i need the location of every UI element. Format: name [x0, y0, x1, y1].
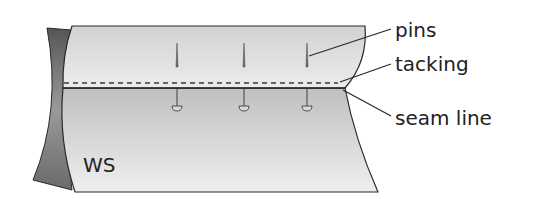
label-wrong-side: WS	[83, 153, 115, 177]
fabric-top-piece	[63, 26, 365, 88]
label-pins: pins	[395, 18, 436, 42]
label-seam-line: seam line	[395, 106, 492, 130]
seam-diagram: pins tacking seam line WS	[0, 0, 533, 199]
label-tacking: tacking	[395, 52, 469, 76]
